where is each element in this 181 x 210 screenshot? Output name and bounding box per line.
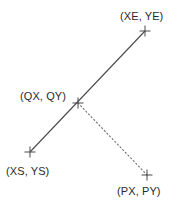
geometry-diagram: (XE, YE) (QX, QY) (XS, YS) (PX, PY) — [0, 0, 181, 210]
projection-segment-line — [78, 103, 147, 175]
diagram-canvas — [0, 0, 181, 210]
point-label-start: (XS, YS) — [6, 165, 49, 177]
cross-marker-projected — [142, 170, 153, 181]
point-label-projected: (PX, PY) — [117, 185, 161, 197]
point-label-end: (XE, YE) — [120, 10, 163, 22]
point-label-query: (QX, QY) — [20, 90, 66, 102]
